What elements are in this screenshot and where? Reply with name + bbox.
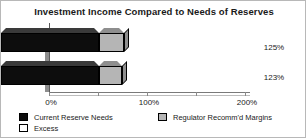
x-axis-tick-0 xyxy=(49,92,50,96)
legend-swatch-excess xyxy=(19,124,28,132)
x-axis-label-0: 0% xyxy=(31,98,71,107)
x-axis-tick-150 xyxy=(196,92,197,96)
x-axis-depth-line xyxy=(49,95,250,96)
bar-segment-recommended-margins xyxy=(99,33,124,52)
x-axis-tick-200 xyxy=(245,92,246,96)
x-axis-tick-100 xyxy=(147,92,148,96)
chart-legend: Current Reserve Needs Excess Regulator R… xyxy=(1,111,306,137)
bar-side-face xyxy=(124,28,129,52)
legend-label-current-reserve-needs: Current Reserve Needs xyxy=(34,113,113,122)
value-label-regulatory-standard: 125% xyxy=(249,43,299,52)
x-axis-line xyxy=(49,92,250,93)
legend-label-recommended-margins: Regulator Recomm'd Margins xyxy=(173,113,272,122)
bar-segment-reserve-needs xyxy=(1,33,99,52)
bar-segment-reserve-needs xyxy=(1,66,99,85)
bar-segment-recommended-margins xyxy=(99,66,122,85)
value-label-investment-income: 123% xyxy=(249,73,299,82)
legend-swatch-current-reserve-needs xyxy=(19,113,28,121)
x-axis-label-100: 100% xyxy=(129,98,169,107)
legend-swatch-recommended-margins xyxy=(158,113,167,121)
chart-container: Investment Income Compared to Needs of R… xyxy=(0,0,306,138)
legend-label-excess: Excess xyxy=(34,124,58,133)
x-axis-tick-50 xyxy=(98,92,99,96)
x-axis-label-200: 200% xyxy=(227,98,267,107)
chart-title: Investment Income Compared to Needs of R… xyxy=(1,6,306,17)
bar-side-face xyxy=(122,61,127,85)
